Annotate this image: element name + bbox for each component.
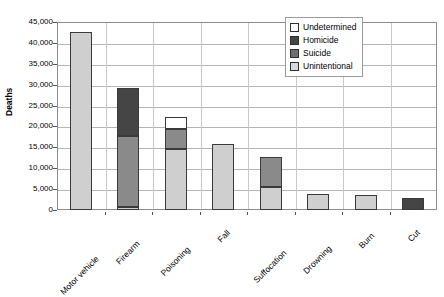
x-axis-tick-mark [295, 212, 296, 215]
y-axis-tick-label: 5,000 [9, 185, 53, 193]
legend-item-label: Undetermined [303, 23, 356, 32]
x-axis-tick-label: Fall [216, 228, 233, 245]
y-axis-tick-mark [53, 147, 57, 148]
y-axis-tick-label: 40,000 [9, 39, 53, 47]
legend-item[interactable]: Unintentional [290, 60, 356, 73]
x-axis-tick-mark [105, 212, 106, 215]
x-axis-tick-label: Poisoning [158, 244, 191, 277]
bar-segment[interactable] [260, 157, 282, 187]
x-axis-tick-label: Suffocation [251, 248, 288, 285]
bar-segment[interactable] [117, 136, 139, 207]
bar-segment[interactable] [117, 207, 139, 210]
x-axis-tick-mark [390, 212, 391, 215]
bar-group[interactable] [117, 22, 139, 210]
bar-group[interactable] [212, 22, 234, 210]
x-axis-tick-label: Burn [356, 231, 376, 251]
legend-item-label: Unintentional [303, 62, 353, 71]
bar-segment[interactable] [165, 117, 187, 129]
bar-segment[interactable] [307, 194, 329, 210]
bar-group[interactable] [260, 22, 282, 210]
y-axis-tick-label: 0 [9, 206, 53, 214]
bars-layer [57, 22, 437, 210]
legend-item[interactable]: Homicide [290, 34, 356, 47]
legend-item[interactable]: Undetermined [290, 21, 356, 34]
x-axis-tick-label: Firearm [114, 239, 142, 267]
y-axis-tick-label: 45,000 [9, 18, 53, 26]
bar-segment[interactable] [402, 198, 424, 210]
y-axis-tick-mark [53, 85, 57, 86]
x-axis-tick-label: Cut [406, 227, 422, 243]
x-axis-tick-mark [152, 212, 153, 215]
y-axis-tick-label: 20,000 [9, 122, 53, 130]
bar-segment[interactable] [70, 32, 92, 210]
legend-swatch-icon [290, 36, 299, 45]
legend-item-label: Homicide [303, 36, 338, 45]
y-axis-tick-mark [53, 64, 57, 65]
y-axis-tick-mark [53, 22, 57, 23]
y-axis-tick-mark [53, 43, 57, 44]
bar-segment[interactable] [165, 149, 187, 210]
y-axis-tick-mark [53, 189, 57, 190]
y-axis-tick-label: 15,000 [9, 143, 53, 151]
legend-item[interactable]: Suicide [290, 47, 356, 60]
x-axis-tick-mark [342, 212, 343, 215]
x-axis-tick-label: Motor vehicle [58, 254, 101, 297]
y-axis-tick-mark [53, 106, 57, 107]
bar-segment[interactable] [117, 88, 139, 136]
legend: UndeterminedHomicideSuicideUnintentional [285, 17, 363, 77]
legend-swatch-icon [290, 49, 299, 58]
y-axis-tick-label: 25,000 [9, 102, 53, 110]
bar-segment[interactable] [212, 144, 234, 210]
x-axis-tick-label: Drowning [301, 243, 333, 275]
legend-item-label: Suicide [303, 49, 331, 58]
bar-segment[interactable] [165, 129, 187, 149]
y-axis-tick-mark [53, 210, 57, 211]
legend-swatch-icon [290, 23, 299, 32]
bar-segment[interactable] [355, 195, 377, 210]
bar-segment[interactable] [260, 187, 282, 210]
legend-swatch-icon [290, 62, 299, 71]
bar-group[interactable] [70, 22, 92, 210]
bar-group[interactable] [402, 22, 424, 210]
x-axis-tick-labels: Motor vehicleFirearmPoisoningFallSuffoca… [57, 212, 437, 285]
y-axis-tick-label: 35,000 [9, 60, 53, 68]
x-axis-tick-mark [200, 212, 201, 215]
y-axis-tick-mark [53, 168, 57, 169]
y-axis-tick-labels: 05,00010,00015,00020,00025,00030,00035,0… [5, 22, 53, 210]
y-axis-tick-label: 30,000 [9, 81, 53, 89]
x-axis-tick-mark [247, 212, 248, 215]
bar-group[interactable] [165, 22, 187, 210]
y-axis-tick-mark [53, 126, 57, 127]
y-axis-tick-label: 10,000 [9, 164, 53, 172]
